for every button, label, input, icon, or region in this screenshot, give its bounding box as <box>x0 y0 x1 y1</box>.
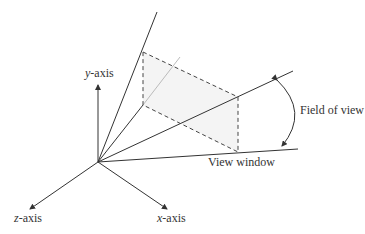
frustum-inner-line <box>98 105 143 162</box>
y-axis-label: y-axis <box>85 66 114 81</box>
field-of-view-arc <box>277 80 295 146</box>
x-axis-label: x-axis <box>157 211 186 226</box>
z-axis-arrow <box>30 162 98 209</box>
z-axis-label: z-axis <box>14 211 42 226</box>
view-window-label: View window <box>208 155 275 170</box>
view-window-fill <box>143 52 238 152</box>
field-of-view-label: Field of view <box>300 103 364 118</box>
x-axis-arrow <box>98 162 167 209</box>
